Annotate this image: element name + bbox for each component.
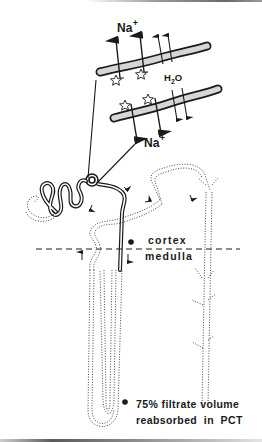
nephron-diagram	[0, 0, 262, 442]
callout-lines	[88, 80, 136, 183]
footnote-line-2: reabsorbed in PCT	[136, 412, 243, 428]
medulla-label: medulla	[145, 250, 193, 262]
apical-membrane	[100, 46, 207, 72]
na-ion-label-top: Na+	[117, 19, 138, 35]
asterisk-footnote-icon	[122, 399, 128, 405]
footnote-line-1: 75% filtrate volume	[136, 396, 239, 412]
water-label: H2O	[164, 72, 182, 85]
na-ion-label-bottom: Na+	[144, 134, 165, 150]
proximal-convoluted-tubule	[42, 180, 125, 270]
cortex-label: cortex	[148, 234, 187, 246]
asterisk-marker-icon	[128, 239, 134, 245]
pump-star-icons	[111, 69, 154, 110]
